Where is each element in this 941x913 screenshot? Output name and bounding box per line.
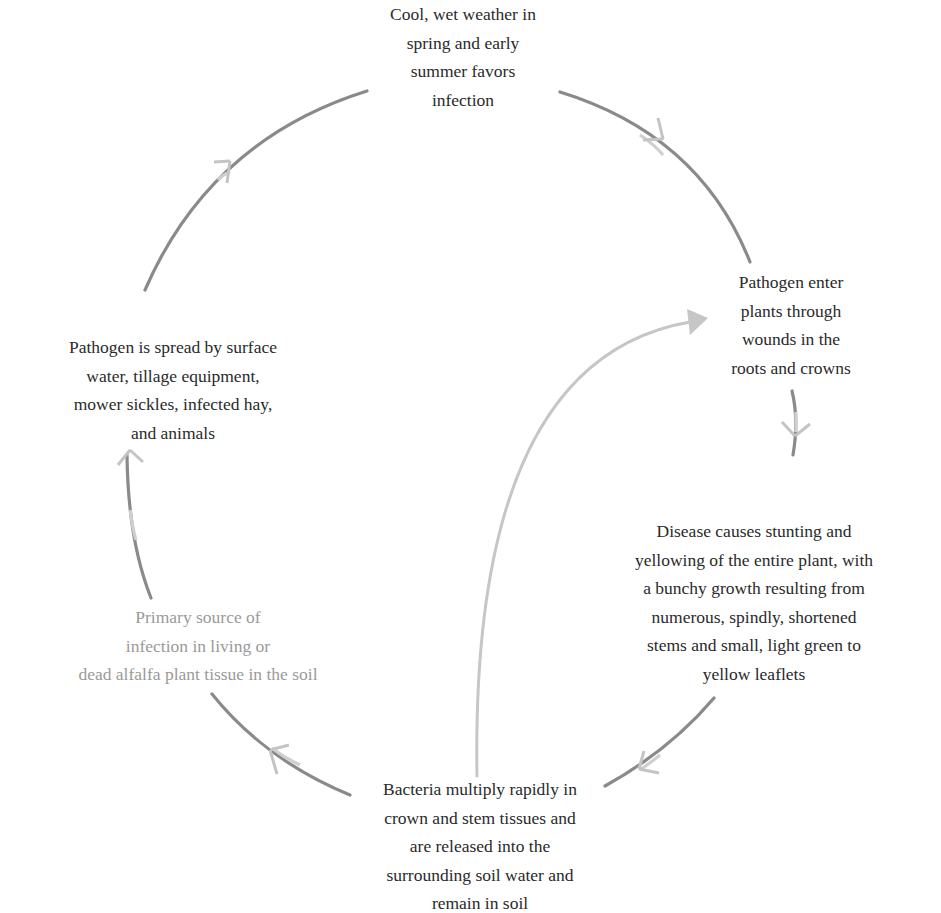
node-text-line: are released into the — [355, 832, 605, 861]
node-text-line: summer favors — [368, 57, 558, 86]
arrow-weather-to-entry — [560, 92, 750, 262]
node-text-line: Bacteria multiply rapidly in — [355, 775, 605, 804]
node-text-line: remain in soil — [355, 889, 605, 913]
node-text-line: infection — [368, 86, 558, 115]
node-text-line: yellow leaflets — [604, 660, 904, 689]
node-text-line: Pathogen enter — [706, 268, 876, 297]
node-text-line: water, tillage equipment, — [38, 362, 308, 391]
node-pathogen-entry: Pathogen enter plants through wounds in … — [706, 268, 876, 382]
node-text-line: roots and crowns — [706, 354, 876, 383]
node-text-line: Cool, wet weather in — [368, 0, 558, 29]
arrow-symptoms-to-multiply — [605, 698, 714, 786]
arrow-entry-to-symptoms — [782, 391, 810, 455]
arrowhead-icon — [118, 450, 143, 465]
node-text-line: Pathogen is spread by surface — [38, 333, 308, 362]
node-text-line: Disease causes stunting and — [604, 517, 904, 546]
arrow-multiply-to-primary-source — [212, 694, 350, 795]
node-text-line: Primary source of — [48, 603, 348, 632]
node-text-line: and animals — [38, 419, 308, 448]
node-text-line: surrounding soil water and — [355, 861, 605, 890]
arrow-primary-source-to-spread — [118, 450, 151, 598]
node-primary-source: Primary source of infection in living or… — [48, 603, 348, 689]
arrow-spread-to-weather — [145, 91, 367, 290]
node-text-line: crown and stem tissues and — [355, 804, 605, 833]
node-pathogen-spread: Pathogen is spread by surface water, til… — [38, 333, 308, 447]
node-text-line: plants through — [706, 297, 876, 326]
node-text-line: spring and early — [368, 29, 558, 58]
node-text-line: mower sickles, infected hay, — [38, 390, 308, 419]
node-text-line: yellowing of the entire plant, with — [604, 546, 904, 575]
node-text-line: dead alfalfa plant tissue in the soil — [48, 660, 348, 689]
node-text-line: wounds in the — [706, 325, 876, 354]
node-text-line: a bunchy growth resulting from — [604, 574, 904, 603]
node-text-line: stems and small, light green to — [604, 631, 904, 660]
arrowhead-icon — [687, 309, 708, 335]
node-text-line: infection in living or — [48, 632, 348, 661]
node-disease-symptoms: Disease causes stunting and yellowing of… — [604, 517, 904, 688]
node-bacteria-multiply: Bacteria multiply rapidly in crown and s… — [355, 775, 605, 913]
node-weather: Cool, wet weather in spring and early su… — [368, 0, 558, 114]
node-text-line: numerous, spindly, shortened — [604, 603, 904, 632]
